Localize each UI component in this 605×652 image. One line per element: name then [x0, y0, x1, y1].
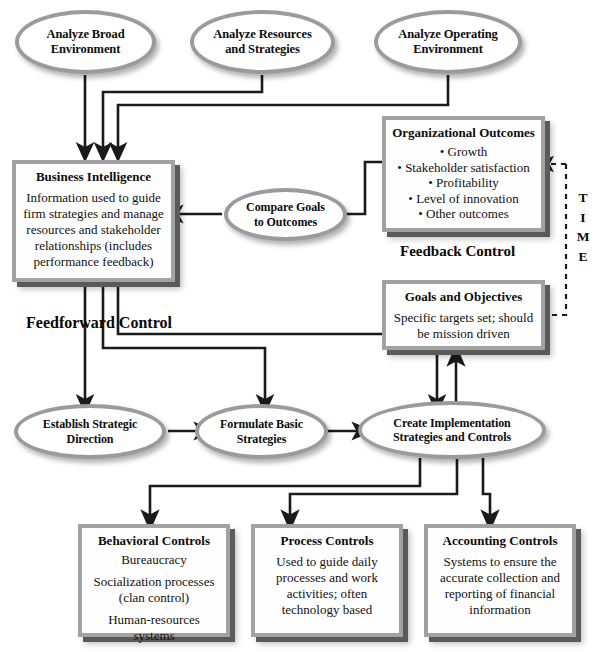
behavioral-controls-item-2: Socialization processes (clan control) — [88, 574, 220, 606]
box-behavioral-controls[interactable]: Behavioral Controls Bureaucracy Socializ… — [78, 524, 230, 637]
node-establish-strategic-direction[interactable]: Establish Strategic Direction — [14, 404, 166, 459]
node-create-implementation-strategies-and-controls[interactable]: Create Implementation Strategies and Con… — [358, 401, 546, 459]
time-letter-m: M — [575, 227, 591, 247]
node-compare-goals-to-outcomes[interactable]: Compare Goals to Outcomes — [224, 188, 347, 241]
time-letter-e: E — [575, 247, 591, 267]
box-business-intelligence-title: Business Intelligence — [36, 170, 151, 185]
node-analyze-operating-label: Analyze Operating Environment — [394, 27, 501, 57]
node-formulate-strategies-label: Formulate Basic Strategies — [216, 417, 307, 445]
node-analyze-operating-environment[interactable]: Analyze Operating Environment — [374, 10, 522, 74]
label-feedback-control: Feedback Control — [400, 243, 515, 260]
box-business-intelligence[interactable]: Business Intelligence Information used t… — [12, 160, 175, 282]
node-formulate-basic-strategies[interactable]: Formulate Basic Strategies — [195, 404, 328, 459]
node-line-1: Create Implementation — [393, 416, 510, 430]
node-line-1: Establish Strategic — [43, 417, 137, 431]
outcome-bullet-level-of-innovation: Level of innovation — [408, 191, 518, 207]
node-compare-goals-label: Compare Goals to Outcomes — [242, 200, 329, 228]
box-accounting-controls[interactable]: Accounting Controls Systems to ensure th… — [424, 524, 576, 637]
node-line-1: Formulate Basic — [220, 417, 303, 431]
node-analyze-resources-label: Analyze Resources and Strategies — [209, 27, 315, 57]
label-time-axis: T I M E — [575, 188, 591, 266]
box-process-controls[interactable]: Process Controls Used to guide daily pro… — [251, 524, 403, 637]
node-establish-direction-label: Establish Strategic Direction — [39, 417, 141, 445]
node-line-1: Compare Goals — [246, 200, 325, 214]
label-feedforward-control: Feedforward Control — [26, 314, 172, 332]
outcome-bullet-growth: Growth — [440, 144, 488, 160]
node-line-1: Analyze Operating — [398, 27, 497, 41]
outcome-bullet-profitability: Profitability — [428, 175, 499, 191]
outcome-bullet-stakeholder-satisfaction: Stakeholder satisfaction — [397, 160, 529, 176]
node-line-2: Environment — [413, 42, 483, 56]
box-goals-and-objectives-title: Goals and Objectives — [405, 290, 523, 305]
box-goals-and-objectives-body: Specific targets set; should be mission … — [392, 310, 535, 342]
box-goals-and-objectives[interactable]: Goals and Objectives Specific targets se… — [382, 280, 545, 350]
node-analyze-broad-environment-label: Analyze Broad Environment — [43, 27, 129, 57]
node-line-1: Analyze Resources — [213, 27, 311, 41]
box-business-intelligence-body: Information used to guide firm strategie… — [22, 190, 165, 271]
diagram-canvas: Analyze Broad Environment Analyze Resour… — [0, 0, 605, 652]
box-process-controls-title: Process Controls — [280, 534, 373, 549]
behavioral-controls-item-3: Human-resources systems — [88, 612, 220, 644]
node-analyze-resources-and-strategies[interactable]: Analyze Resources and Strategies — [190, 10, 335, 74]
node-line-2: to Outcomes — [254, 215, 317, 229]
box-organizational-outcomes[interactable]: Organizational Outcomes Growth Stakehold… — [382, 116, 545, 232]
node-line-2: Strategies and Controls — [393, 430, 511, 444]
node-line-2: Direction — [67, 432, 114, 446]
outcome-bullet-other-outcomes: Other outcomes — [418, 206, 508, 222]
time-letter-i: I — [575, 208, 591, 228]
time-letter-t: T — [575, 188, 591, 208]
box-organizational-outcomes-title: Organizational Outcomes — [392, 126, 535, 141]
node-line-2: Environment — [51, 42, 121, 56]
box-process-controls-body: Used to guide daily processes and work a… — [261, 554, 393, 618]
box-accounting-controls-body: Systems to ensure the accurate collectio… — [434, 554, 566, 618]
node-line-2: and Strategies — [225, 42, 300, 56]
box-accounting-controls-title: Accounting Controls — [443, 534, 558, 549]
node-line-2: Strategies — [237, 432, 287, 446]
node-create-implementation-label: Create Implementation Strategies and Con… — [389, 416, 515, 444]
node-line-1: Analyze Broad — [47, 27, 125, 41]
node-analyze-broad-environment[interactable]: Analyze Broad Environment — [15, 10, 156, 74]
behavioral-controls-item-1: Bureaucracy — [121, 552, 187, 568]
box-behavioral-controls-title: Behavioral Controls — [98, 534, 210, 549]
